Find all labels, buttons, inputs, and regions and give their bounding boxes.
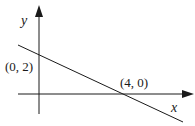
x-axis-label: x <box>170 100 178 115</box>
coordinate-diagram: y x (0, 2) (4, 0) <box>0 0 195 126</box>
point-label-x-intercept: (4, 0) <box>120 75 148 90</box>
y-axis-arrow-icon <box>35 5 43 17</box>
y-axis-label: y <box>19 13 28 28</box>
graph-line <box>18 45 183 122</box>
point-label-y-intercept: (0, 2) <box>5 59 33 74</box>
x-axis-arrow-icon <box>182 90 194 98</box>
